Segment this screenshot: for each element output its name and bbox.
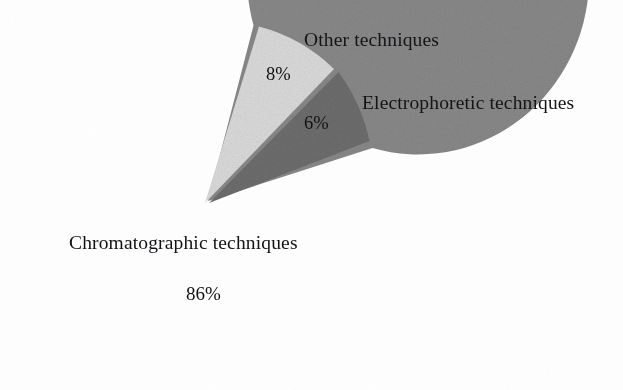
pie-value-other-techniques: 8% <box>266 64 291 85</box>
pie-value-chromatographic-techniques: 86% <box>186 283 221 305</box>
pie-label-electrophoretic-techniques: Electrophoretic techniques <box>362 92 574 113</box>
pie-label-chromatographic-techniques: Chromatographic techniques <box>69 232 298 254</box>
pie-chart-canvas <box>0 0 623 390</box>
pie-chart-figure: Other techniques Electrophoretic techniq… <box>0 0 623 390</box>
pie-label-other-techniques: Other techniques <box>304 29 439 50</box>
pie-value-electrophoretic-techniques: 6% <box>304 113 329 134</box>
